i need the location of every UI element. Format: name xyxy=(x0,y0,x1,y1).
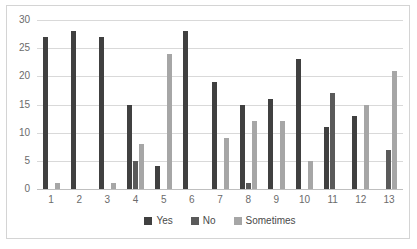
bar[interactable] xyxy=(324,127,329,189)
bar[interactable] xyxy=(127,105,132,190)
bar-group xyxy=(234,20,262,189)
bar-group xyxy=(37,20,65,189)
bar-slot xyxy=(308,20,313,189)
bar[interactable] xyxy=(240,105,245,190)
bar-slot xyxy=(268,20,273,189)
bar-slot xyxy=(392,20,397,189)
bar[interactable] xyxy=(224,138,229,189)
x-axis-tick-label: 2 xyxy=(65,192,93,208)
bar[interactable] xyxy=(111,183,116,189)
legend-label: Yes xyxy=(156,216,172,226)
x-axis: 12345678910111213 xyxy=(37,192,403,208)
bar[interactable] xyxy=(99,37,104,189)
x-axis-tick-label: 4 xyxy=(121,192,149,208)
bar-group xyxy=(347,20,375,189)
y-axis-tick-label: 25 xyxy=(19,43,30,53)
bar-slot xyxy=(224,20,229,189)
bar[interactable] xyxy=(268,99,273,189)
x-axis-tick-label: 5 xyxy=(150,192,178,208)
bar-slot xyxy=(352,20,357,189)
bar-group xyxy=(206,20,234,189)
bar[interactable] xyxy=(386,150,391,189)
bar-slot xyxy=(380,20,385,189)
y-axis-tick-label: 10 xyxy=(19,128,30,138)
bar-slot xyxy=(161,20,166,189)
bar-slot xyxy=(105,20,110,189)
bar-slot xyxy=(167,20,172,189)
bar-slot xyxy=(358,20,363,189)
bar-slot xyxy=(364,20,369,189)
bar-slot xyxy=(336,20,341,189)
x-axis-tick-label: 12 xyxy=(347,192,375,208)
chart-legend: YesNoSometimes xyxy=(37,213,403,229)
bar-slot xyxy=(324,20,329,189)
x-axis-tick-label: 6 xyxy=(178,192,206,208)
x-axis-tick-label: 10 xyxy=(290,192,318,208)
bar-slot xyxy=(280,20,285,189)
x-axis-tick-label: 11 xyxy=(319,192,347,208)
bar-group xyxy=(375,20,403,189)
legend-item[interactable]: No xyxy=(191,216,216,226)
bar-group xyxy=(65,20,93,189)
bar[interactable] xyxy=(71,31,76,189)
bar[interactable] xyxy=(155,166,160,189)
bar-slot xyxy=(252,20,257,189)
y-axis-tick-label: 30 xyxy=(19,15,30,25)
x-axis-tick-label: 1 xyxy=(37,192,65,208)
bar[interactable] xyxy=(330,93,335,189)
legend-swatch-icon xyxy=(234,217,242,225)
bar-slot xyxy=(71,20,76,189)
bar[interactable] xyxy=(296,59,301,189)
bar-slot xyxy=(296,20,301,189)
bar[interactable] xyxy=(280,121,285,189)
x-axis-tick-label: 8 xyxy=(234,192,262,208)
bar-slot xyxy=(127,20,132,189)
bar[interactable] xyxy=(55,183,60,189)
plot-area xyxy=(37,20,403,189)
bar-slot xyxy=(218,20,223,189)
bar-slot xyxy=(183,20,188,189)
chart-frame: 051015202530 12345678910111213 YesNoSome… xyxy=(6,5,410,239)
legend-item[interactable]: Sometimes xyxy=(234,216,296,226)
y-axis-tick-label: 5 xyxy=(24,156,30,166)
bar-group xyxy=(150,20,178,189)
bar[interactable] xyxy=(364,105,369,190)
bar[interactable] xyxy=(352,116,357,189)
bar-slot xyxy=(189,20,194,189)
bar[interactable] xyxy=(133,161,138,189)
legend-label: No xyxy=(203,216,216,226)
x-axis-tick-label: 13 xyxy=(375,192,403,208)
bar-slot xyxy=(43,20,48,189)
bar-slot xyxy=(83,20,88,189)
bar[interactable] xyxy=(167,54,172,189)
bar-group xyxy=(93,20,121,189)
bar[interactable] xyxy=(392,71,397,189)
legend-item[interactable]: Yes xyxy=(144,216,172,226)
bar-slot xyxy=(246,20,251,189)
bar-slot xyxy=(49,20,54,189)
y-axis-tick-label: 20 xyxy=(19,71,30,81)
bar[interactable] xyxy=(308,161,313,189)
bar-group xyxy=(290,20,318,189)
bar-slot xyxy=(155,20,160,189)
bar-slot xyxy=(330,20,335,189)
bar-slot xyxy=(240,20,245,189)
bar[interactable] xyxy=(183,31,188,189)
bar-slot xyxy=(99,20,104,189)
bar-group xyxy=(121,20,149,189)
bar-slot xyxy=(55,20,60,189)
bar[interactable] xyxy=(139,144,144,189)
bar[interactable] xyxy=(212,82,217,189)
y-axis-tick-label: 15 xyxy=(19,100,30,110)
bar-slot xyxy=(77,20,82,189)
bar-group xyxy=(262,20,290,189)
y-axis-tick-label: 0 xyxy=(24,184,30,194)
bar[interactable] xyxy=(43,37,48,189)
bar[interactable] xyxy=(252,121,257,189)
x-axis-tick-label: 7 xyxy=(206,192,234,208)
bar-slot xyxy=(133,20,138,189)
bar-slot xyxy=(274,20,279,189)
bar[interactable] xyxy=(246,183,251,189)
bar-group xyxy=(319,20,347,189)
x-axis-tick-label: 3 xyxy=(93,192,121,208)
